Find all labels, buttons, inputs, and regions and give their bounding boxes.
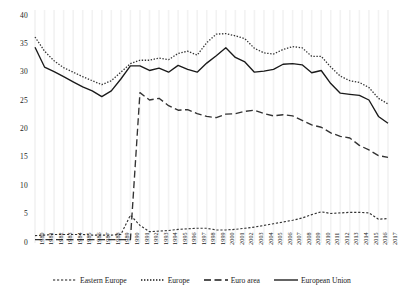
- x-axis-tick-label: 1985: [85, 232, 92, 245]
- legend-item-label: European Union: [301, 276, 351, 285]
- legend-item-label: Eastern Europe: [80, 276, 127, 285]
- x-axis-tick-label: 1991: [143, 232, 150, 245]
- x-axis-tick-label: 1996: [190, 232, 197, 245]
- x-axis-tick-label: 1981: [47, 232, 54, 245]
- legend-item-europe[interactable]: Europe: [141, 276, 190, 285]
- legend-line-swatch-icon: [53, 276, 77, 284]
- x-axis-tick-label: 1997: [200, 232, 207, 245]
- x-axis-tick-label: 1994: [171, 232, 178, 245]
- x-axis-tick-label: 2010: [324, 232, 331, 245]
- x-axis-tick-label: 1987: [104, 232, 111, 245]
- x-axis-tick-label: 2008: [305, 232, 312, 245]
- x-axis-tick-label: 1999: [219, 232, 226, 245]
- y-axis-tick-label: 20: [6, 125, 28, 133]
- vertical-gridlines: [35, 10, 388, 243]
- x-axis-tick-label: 2011: [333, 232, 340, 245]
- series-line-europe: [35, 34, 388, 104]
- x-axis-tick-label: 2007: [295, 232, 302, 245]
- x-axis-tick-label: 2005: [276, 232, 283, 245]
- x-axis-tick-label: 1992: [152, 232, 159, 245]
- x-axis-tick-label: 1998: [209, 232, 216, 245]
- x-axis-tick-label: 1984: [76, 232, 83, 245]
- legend-item-eastern-europe[interactable]: Eastern Europe: [53, 276, 127, 285]
- x-axis-tick-label: 2016: [381, 232, 388, 245]
- y-axis-tick-label: 25: [6, 97, 28, 105]
- x-axis-tick-label: 1986: [95, 232, 102, 245]
- legend-line-swatch-icon: [141, 276, 165, 284]
- legend-line-swatch-icon: [204, 276, 228, 284]
- x-axis-tick-label: 1989: [123, 232, 130, 245]
- x-axis-tick-label: 2003: [257, 232, 264, 245]
- series-line-european-union: [35, 47, 388, 123]
- y-axis-tick-label: 40: [6, 12, 28, 20]
- x-axis-tick-label: 2002: [247, 232, 254, 245]
- x-axis-tick-label: 2004: [267, 232, 274, 245]
- x-axis-tick-label: 2009: [314, 232, 321, 245]
- chart-container: 0510152025303540 19801981198219831984198…: [0, 0, 404, 295]
- y-axis-tick-label: 30: [6, 68, 28, 76]
- x-axis-tick-label: 1995: [181, 232, 188, 245]
- x-axis-tick-label: 1982: [57, 232, 64, 245]
- y-axis-tick-label: 0: [6, 239, 28, 247]
- x-axis-tick-label: 1980: [38, 232, 45, 245]
- chart-plot-area: [0, 0, 404, 295]
- series-line-euro-area: [35, 93, 388, 240]
- x-axis-tick-label: 2001: [238, 232, 245, 245]
- legend-item-euro-area[interactable]: Euro area: [204, 276, 260, 285]
- x-axis-tick-label: 2000: [228, 232, 235, 245]
- legend-line-swatch-icon: [274, 276, 298, 284]
- y-axis-tick-label: 10: [6, 182, 28, 190]
- x-axis-tick-label: 1988: [114, 232, 121, 245]
- legend-item-european-union[interactable]: European Union: [274, 276, 351, 285]
- x-axis-tick-label: 2013: [352, 232, 359, 245]
- legend-item-label: Euro area: [231, 276, 260, 285]
- x-axis-tick-label: 2014: [362, 232, 369, 245]
- x-axis-tick-label: 1990: [133, 232, 140, 245]
- y-axis-tick-label: 15: [6, 153, 28, 161]
- x-axis-tick-label: 2012: [343, 232, 350, 245]
- y-axis-tick-label: 5: [6, 210, 28, 218]
- x-axis-tick-label: 1993: [162, 232, 169, 245]
- y-axis-tick-label: 35: [6, 40, 28, 48]
- x-axis-tick-label: 2017: [391, 232, 398, 245]
- series-lines: [35, 34, 388, 240]
- legend-item-label: Europe: [168, 276, 190, 285]
- x-axis-tick-label: 2015: [372, 232, 379, 245]
- x-axis-tick-label: 2006: [286, 232, 293, 245]
- x-axis-tick-label: 1983: [66, 232, 73, 245]
- chart-legend: Eastern EuropeEuropeEuro areaEuropean Un…: [0, 272, 404, 288]
